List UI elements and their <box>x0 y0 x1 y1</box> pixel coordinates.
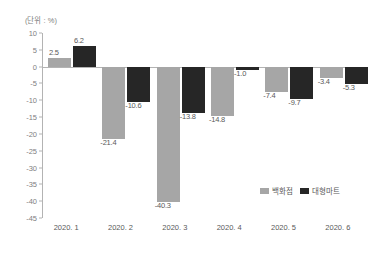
legend-swatch <box>260 188 269 194</box>
legend-label: 백화점 <box>272 185 293 196</box>
bar-value-label: -9.7 <box>288 98 300 107</box>
x-axis-tick-label: 2020. 6 <box>311 223 365 232</box>
legend-swatch <box>300 188 309 194</box>
unit-label: (단위 : %) <box>25 14 57 25</box>
legend-label: 대형마트 <box>312 185 340 196</box>
bar-value-label: -14.8 <box>209 115 225 124</box>
bar[interactable] <box>102 67 125 139</box>
bar[interactable] <box>157 67 180 203</box>
bar-value-label: -3.4 <box>318 77 330 86</box>
bar[interactable] <box>290 67 313 100</box>
bar[interactable] <box>265 67 288 92</box>
x-axis-tick-label: 2020. 1 <box>39 223 93 232</box>
chart-legend: 백화점대형마트 <box>260 185 340 196</box>
x-axis-tick-label: 2020. 2 <box>93 223 147 232</box>
legend-item[interactable]: 백화점 <box>260 185 293 196</box>
bar-group: -40.3-13.82020. 3 <box>151 33 205 218</box>
bar-value-label: 2.5 <box>49 48 59 57</box>
bar-group: -21.4-10.62020. 2 <box>96 33 150 218</box>
x-axis-tick-label: 2020. 4 <box>202 223 256 232</box>
bar-value-label: -13.8 <box>180 112 196 121</box>
bar-group: -14.8-1.02020. 4 <box>205 33 259 218</box>
bar-chart: (단위 : %) 1050-5-10-15-20-25-30-35-40-452… <box>0 0 378 255</box>
bar-value-label: -1.0 <box>234 69 246 78</box>
bar[interactable] <box>211 67 234 117</box>
bar[interactable] <box>73 46 96 67</box>
bar[interactable] <box>345 67 368 85</box>
x-axis-tick-label: 2020. 3 <box>148 223 202 232</box>
bar[interactable] <box>182 67 205 113</box>
bar[interactable] <box>48 58 71 66</box>
bar-value-label: -7.4 <box>263 91 275 100</box>
bar-value-label: -40.3 <box>155 201 171 210</box>
bar-group: 2.56.22020. 1 <box>42 33 96 218</box>
bar-value-label: -10.6 <box>125 101 141 110</box>
bar[interactable] <box>127 67 150 103</box>
x-axis-tick-label: 2020. 5 <box>256 223 310 232</box>
bar-value-label: -5.3 <box>343 83 355 92</box>
legend-item[interactable]: 대형마트 <box>300 185 340 196</box>
bar-value-label: -21.4 <box>100 138 116 147</box>
bar-value-label: 6.2 <box>74 36 84 45</box>
